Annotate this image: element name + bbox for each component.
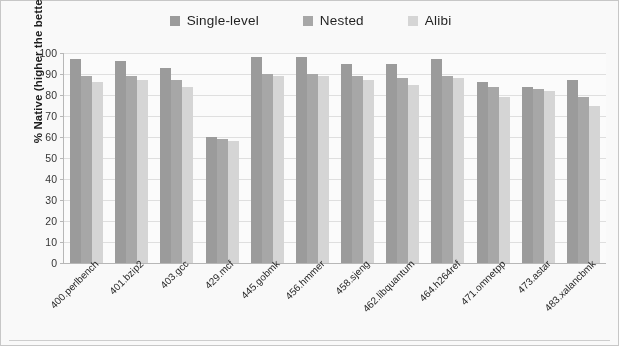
- bar: [453, 78, 464, 263]
- bar: [386, 64, 397, 264]
- x-label-cell: 483.xalancbmk: [561, 266, 606, 344]
- y-tick-mark: [60, 263, 64, 264]
- y-tick-label: 100: [39, 47, 57, 59]
- bar: [567, 80, 578, 263]
- legend-swatch-icon: [170, 16, 180, 26]
- bar: [251, 57, 262, 263]
- x-label-cell: 403.gcc: [154, 266, 199, 344]
- x-tick-label-text: 445.gobmk: [239, 258, 282, 301]
- legend-swatch-icon: [408, 16, 418, 26]
- y-tick-label: 30: [45, 194, 57, 206]
- bar-group: [290, 53, 335, 263]
- x-label-cell: 400.perlbench: [63, 266, 108, 344]
- y-tick-label: 10: [45, 236, 57, 248]
- y-tick-label: 90: [45, 68, 57, 80]
- bottom-divider: [9, 340, 610, 341]
- x-label-cell: 401.bzip2: [108, 266, 153, 344]
- bar: [160, 68, 171, 263]
- x-axis-labels: 400.perlbench401.bzip2403.gcc429.mcf445.…: [63, 266, 606, 344]
- bar: [182, 87, 193, 263]
- y-tick-label: 50: [45, 152, 57, 164]
- bar-group: [561, 53, 606, 263]
- bar: [578, 97, 589, 263]
- bar: [307, 74, 318, 263]
- y-tick-label: 60: [45, 131, 57, 143]
- bar-group: [471, 53, 516, 263]
- legend-label: Single-level: [187, 13, 259, 28]
- bar: [318, 76, 329, 263]
- bar: [273, 76, 284, 263]
- bar: [171, 80, 182, 263]
- bar: [206, 137, 217, 263]
- x-label-cell: 445.gobmk: [244, 266, 289, 344]
- bar-group: [380, 53, 425, 263]
- bar: [499, 97, 510, 263]
- x-label-cell: 429.mcf: [199, 266, 244, 344]
- y-tick-label: 20: [45, 215, 57, 227]
- x-label-cell: 471.omnetpp: [470, 266, 515, 344]
- legend-entry: Alibi: [408, 13, 452, 28]
- bar-chart-figure: Single-levelNestedAlibi % Native (higher…: [0, 0, 619, 346]
- y-tick-label: 40: [45, 173, 57, 185]
- bar-group: [516, 53, 561, 263]
- y-axis-title: % Native (higher the better): [32, 0, 44, 182]
- bar-group: [335, 53, 380, 263]
- bar: [408, 85, 419, 264]
- bar: [352, 76, 363, 263]
- bar-group: [200, 53, 245, 263]
- bar: [363, 80, 374, 263]
- legend-entry: Single-level: [170, 13, 259, 28]
- bar: [92, 82, 103, 263]
- bar: [70, 59, 81, 263]
- legend-swatch-icon: [303, 16, 313, 26]
- bar: [137, 80, 148, 263]
- bar: [544, 91, 555, 263]
- bar: [217, 139, 228, 263]
- y-tick-label: 70: [45, 110, 57, 122]
- bar: [589, 106, 600, 264]
- y-tick-label: 80: [45, 89, 57, 101]
- y-tick-label: 0: [51, 257, 57, 269]
- bar: [296, 57, 307, 263]
- bar-group: [245, 53, 290, 263]
- bar-group: [154, 53, 199, 263]
- x-label-cell: 456.hmmer: [289, 266, 334, 344]
- legend-label: Alibi: [425, 13, 452, 28]
- bar: [397, 78, 408, 263]
- legend-entry: Nested: [303, 13, 364, 28]
- bar: [262, 74, 273, 263]
- x-tick-label-text: 456.hmmer: [283, 258, 327, 302]
- x-label-cell: 462.libquantum: [380, 266, 425, 344]
- legend-label: Nested: [320, 13, 364, 28]
- bar-group: [64, 53, 109, 263]
- chart-legend: Single-levelNestedAlibi: [1, 13, 619, 28]
- bar: [228, 141, 239, 263]
- bar: [81, 76, 92, 263]
